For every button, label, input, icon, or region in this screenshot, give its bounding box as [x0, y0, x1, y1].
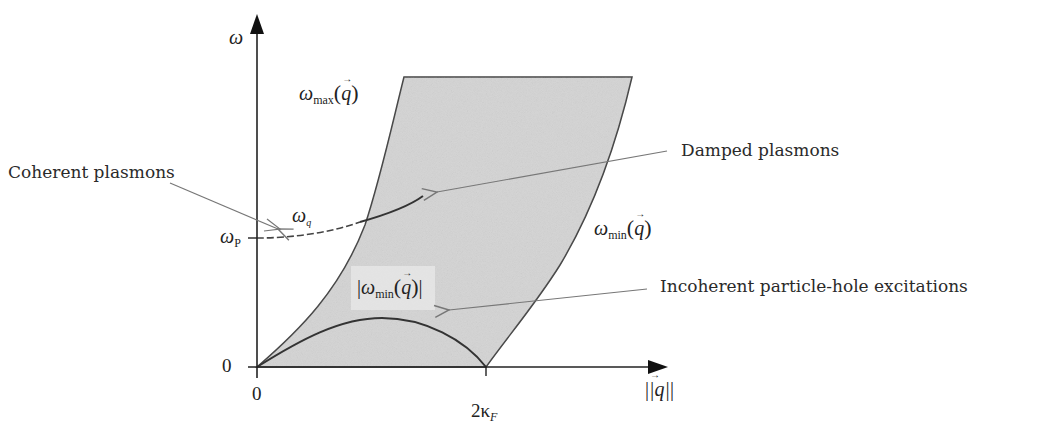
particle-hole-continuum-region [257, 77, 632, 367]
omega-q-plasmon-label: ωq [292, 204, 311, 228]
y-axis-arrowhead-icon [250, 14, 264, 34]
x-axis-label: ||q|| [645, 378, 674, 401]
omega-min-label: ωmin(q) [594, 215, 651, 243]
incoherent-excitations-annotation: Incoherent particle-hole excitations [660, 276, 968, 296]
damped-plasmons-annotation: Damped plasmons [681, 140, 839, 160]
y-axis-label: ω [229, 26, 243, 49]
coherent-plasmons-annotation: Coherent plasmons [8, 162, 175, 182]
coherent-arrow [170, 183, 278, 229]
x-origin-tick-label: 0 [252, 383, 262, 405]
x-tick-2kF-label: 2κF [471, 400, 497, 425]
diagram-canvas [0, 0, 1037, 438]
omega-max-label: ωmax(q) [299, 80, 358, 108]
abs-omega-min-label: |ωmin(q)| [357, 274, 422, 302]
y-origin-tick-label: 0 [222, 355, 232, 377]
omega-p-label: ωP [220, 225, 241, 251]
